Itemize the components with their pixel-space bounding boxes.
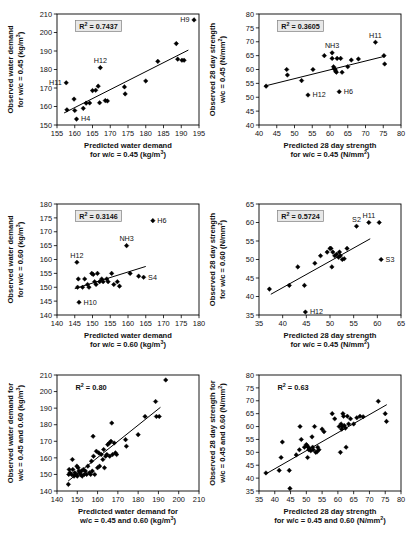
regression-trendline	[265, 405, 386, 475]
y-tick-label: 190	[40, 404, 52, 413]
data-point	[305, 455, 310, 460]
x-axis-label: Predicted 28 day strength	[284, 331, 377, 340]
data-point	[280, 440, 285, 445]
y-axis-label: Observed water demand	[6, 25, 15, 114]
y-axis-label-line2: w/c = 0.45 (N/mm2)	[217, 36, 227, 104]
x-tick-label: 40	[279, 319, 287, 328]
y-tick-label: 60	[246, 218, 254, 227]
data-point	[373, 40, 378, 45]
regression-trendline	[264, 56, 385, 86]
point-label: H11	[369, 31, 382, 40]
x-tick-label: 190	[152, 495, 164, 504]
y-axis-label-line2: for w/c = 0.45 (kg/m3)	[15, 31, 25, 107]
y-tick-label: 200	[40, 387, 52, 396]
panel-bottom-right: 3540455055606570758035404550556065707580…	[205, 363, 411, 546]
x-tick-label: 200	[173, 495, 185, 504]
x-axis-label-line2: for w/c = 0.45 (N/mm2)	[290, 149, 370, 159]
y-tick-label: 165	[40, 241, 52, 250]
data-point	[383, 411, 388, 416]
point-label: H12	[70, 251, 83, 260]
panel-bottom-left: 1401501601701801902002101401501601701801…	[0, 363, 206, 546]
x-tick-label: 70	[365, 495, 373, 504]
y-tick-label: 160	[40, 454, 52, 463]
x-tick-label: 170	[104, 129, 116, 138]
data-point	[379, 257, 384, 262]
x-tick-label: 75	[379, 129, 387, 138]
scatter-plot-top-right: 404550556065707580404550556065707580H12N…	[205, 0, 411, 180]
y-tick-label: 55	[246, 79, 254, 88]
x-tick-label: 160	[69, 129, 81, 138]
x-tick-label: 170	[112, 495, 124, 504]
y-tick-label: 155	[40, 269, 52, 278]
data-point	[267, 287, 272, 292]
data-point	[72, 108, 77, 113]
data-point	[337, 89, 342, 94]
data-point	[299, 437, 304, 442]
y-tick-label: 70	[246, 396, 254, 405]
x-axis-label: Predicted water demand	[84, 331, 172, 340]
x-tick-label: 155	[104, 319, 116, 328]
y-tick-label: 160	[40, 102, 52, 111]
x-tick-label: 210	[193, 495, 205, 504]
panel-middle-right: 3540455055606535404550556065H12S2H11S3R2…	[205, 180, 411, 365]
x-tick-label: 190	[175, 129, 187, 138]
y-tick-label: 145	[40, 297, 52, 306]
y-axis-label-line2: for w/c = 0.60 (kg/m3)	[15, 221, 25, 297]
data-point	[75, 260, 80, 265]
x-tick-label: 80	[397, 129, 405, 138]
data-point	[299, 78, 304, 83]
y-tick-label: 180	[40, 65, 52, 74]
data-point	[332, 417, 337, 422]
y-tick-label: 150	[40, 470, 52, 479]
y-tick-label: 40	[246, 292, 254, 301]
y-tick-label: 175	[40, 214, 52, 223]
x-tick-label: 140	[51, 319, 63, 328]
data-point	[297, 447, 302, 452]
x-tick-label: 65	[397, 319, 405, 328]
data-point	[82, 277, 87, 282]
data-point	[96, 84, 101, 89]
data-point	[264, 84, 269, 89]
data-point	[382, 62, 387, 67]
data-point	[338, 56, 343, 61]
data-point	[294, 453, 299, 458]
data-point	[91, 454, 96, 459]
x-tick-label: 40	[271, 495, 279, 504]
y-axis-label-line2: w/c = 0.45 and 0.60 (N/mm2)	[217, 383, 227, 484]
data-point	[112, 282, 117, 287]
data-point	[174, 41, 179, 46]
y-tick-label: 150	[40, 121, 52, 130]
data-point	[287, 468, 292, 473]
data-point	[136, 274, 141, 279]
x-tick-label: 180	[193, 319, 205, 328]
x-tick-label: 50	[326, 319, 334, 328]
data-point	[287, 283, 292, 288]
x-tick-label: 160	[91, 495, 103, 504]
y-tick-label: 55	[246, 435, 254, 444]
y-tick-label: 35	[246, 311, 254, 320]
y-axis-label: Observed 28 day strength	[208, 23, 217, 117]
data-point	[310, 435, 315, 440]
point-label: H9	[180, 15, 189, 24]
data-point	[318, 254, 323, 259]
data-point	[93, 88, 98, 93]
data-point	[77, 300, 82, 305]
x-axis-label-line2: for w/c = 0.45 (N/mm2)	[290, 339, 370, 349]
y-tick-label: 50	[246, 448, 254, 457]
data-point	[124, 243, 129, 248]
y-tick-label: 180	[40, 200, 52, 209]
data-point	[141, 275, 146, 280]
data-point	[72, 97, 77, 102]
data-point	[109, 421, 114, 426]
x-tick-label: 60	[334, 495, 342, 504]
y-tick-label: 180	[40, 420, 52, 429]
data-point	[264, 471, 269, 476]
y-tick-label: 75	[246, 384, 254, 393]
x-tick-label: 55	[350, 319, 358, 328]
y-tick-label: 35	[246, 487, 254, 496]
y-tick-label: 50	[246, 93, 254, 102]
y-tick-label: 60	[246, 422, 254, 431]
data-point	[102, 466, 107, 471]
x-tick-label: 50	[290, 129, 298, 138]
data-point	[156, 59, 161, 64]
